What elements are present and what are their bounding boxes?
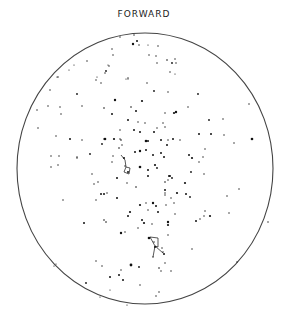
star — [112, 155, 113, 156]
star-chart — [0, 0, 288, 327]
star — [103, 107, 105, 109]
star — [139, 284, 140, 285]
star — [101, 143, 103, 145]
star — [127, 171, 129, 173]
constellation-line — [124, 167, 126, 172]
star — [105, 221, 107, 223]
star — [119, 138, 120, 139]
star — [60, 113, 61, 114]
star — [113, 138, 115, 140]
star — [95, 79, 96, 80]
star — [161, 247, 162, 248]
star — [73, 64, 74, 65]
star — [175, 62, 176, 63]
star — [81, 105, 82, 106]
star — [137, 121, 138, 122]
star — [53, 265, 54, 266]
star — [176, 192, 178, 194]
star — [147, 44, 148, 45]
star — [83, 222, 85, 224]
star — [56, 76, 57, 77]
star — [89, 153, 91, 155]
star — [135, 186, 137, 188]
star — [179, 139, 180, 140]
star — [152, 256, 153, 257]
star — [164, 192, 165, 193]
star — [163, 156, 165, 158]
star — [95, 260, 96, 261]
star — [173, 112, 175, 114]
star — [86, 60, 87, 61]
star — [50, 155, 51, 156]
star — [139, 204, 141, 206]
star — [126, 182, 127, 183]
star — [145, 140, 148, 143]
star — [132, 43, 134, 45]
star — [145, 149, 147, 151]
star — [151, 223, 152, 224]
star — [111, 113, 113, 115]
star — [191, 248, 192, 249]
star — [104, 138, 107, 141]
star — [157, 211, 159, 213]
star — [238, 188, 239, 189]
star — [62, 199, 63, 200]
star — [174, 58, 175, 59]
star — [162, 251, 163, 252]
star — [139, 131, 141, 133]
star — [76, 157, 77, 158]
star — [141, 100, 143, 102]
star — [152, 202, 154, 204]
star — [127, 78, 128, 79]
star — [95, 199, 96, 200]
star — [203, 173, 204, 174]
star — [109, 289, 110, 290]
star — [169, 175, 171, 177]
star — [164, 189, 166, 191]
star — [197, 93, 199, 95]
star — [138, 44, 139, 45]
star — [164, 126, 165, 127]
star — [233, 142, 234, 143]
star — [160, 270, 161, 271]
star — [100, 82, 101, 83]
star — [138, 266, 140, 268]
star — [236, 261, 237, 262]
star — [170, 197, 171, 198]
constellation-line — [129, 168, 130, 174]
constellation-line — [155, 246, 163, 253]
star — [50, 166, 51, 167]
star — [171, 62, 173, 64]
star — [208, 119, 210, 121]
star — [171, 177, 173, 179]
star — [133, 129, 135, 131]
star — [106, 192, 107, 193]
star — [111, 161, 112, 162]
star — [228, 212, 229, 213]
star — [210, 133, 212, 135]
star — [147, 175, 149, 177]
star — [139, 166, 142, 169]
star — [134, 151, 136, 153]
star — [81, 139, 82, 140]
star — [57, 164, 58, 165]
constellation-line — [126, 167, 130, 168]
star — [209, 215, 211, 217]
star — [100, 193, 102, 195]
star — [163, 253, 165, 255]
star — [153, 90, 155, 92]
star — [120, 232, 122, 234]
star — [147, 209, 148, 210]
star — [172, 138, 174, 140]
star — [143, 222, 145, 224]
star — [107, 64, 108, 65]
star — [148, 237, 151, 240]
star — [129, 211, 131, 213]
star — [189, 196, 191, 198]
star — [59, 106, 60, 107]
star — [99, 296, 100, 297]
star — [118, 274, 120, 276]
star — [103, 219, 105, 221]
star — [156, 167, 158, 169]
star — [165, 204, 166, 205]
